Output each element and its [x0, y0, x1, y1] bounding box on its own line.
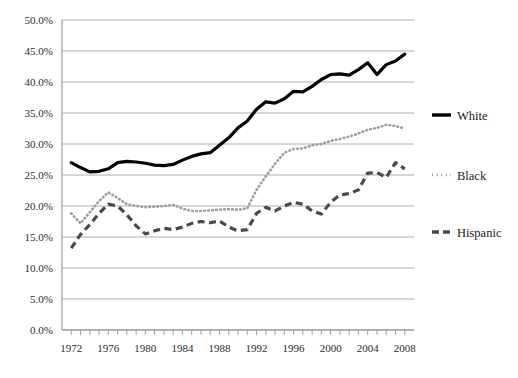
x-axis-tick-label: 1976	[97, 342, 120, 354]
x-axis-tick-label: 1996	[283, 342, 306, 354]
x-axis-tick-label: 1992	[246, 342, 268, 354]
x-axis-tick-label: 1980	[134, 342, 157, 354]
x-axis-tick-label: 1984	[171, 342, 194, 354]
y-axis-tick-label: 15.0%	[25, 231, 53, 243]
x-axis-tick-label: 2008	[394, 342, 417, 354]
x-axis-tick-label: 1988	[208, 342, 231, 354]
y-axis-tick-label: 10.0%	[25, 262, 53, 274]
y-axis-tick-label: 5.0%	[30, 293, 53, 305]
legend-label-black: Black	[457, 169, 487, 183]
series-line-hispanic	[71, 163, 404, 249]
y-axis-tick-label: 20.0%	[25, 200, 53, 212]
y-axis-tick-label: 0.0%	[30, 324, 53, 336]
legend-label-white: White	[457, 109, 488, 123]
y-axis-tick-label: 45.0%	[25, 45, 53, 57]
x-axis-tick-label: 1972	[60, 342, 82, 354]
legend-label-hispanic: Hispanic	[457, 226, 502, 240]
y-axis-tick-label: 50.0%	[25, 14, 53, 26]
y-axis-tick-label: 30.0%	[25, 138, 53, 150]
line-chart: 0.0%5.0%10.0%15.0%20.0%25.0%30.0%35.0%40…	[0, 0, 518, 378]
y-axis-tick-label: 40.0%	[25, 76, 53, 88]
y-axis-tick-label: 35.0%	[25, 107, 53, 119]
x-axis-tick-label: 2004	[357, 342, 380, 354]
chart-container: 0.0%5.0%10.0%15.0%20.0%25.0%30.0%35.0%40…	[0, 0, 518, 378]
y-axis-tick-label: 25.0%	[25, 169, 53, 181]
x-axis-tick-label: 2000	[320, 342, 343, 354]
